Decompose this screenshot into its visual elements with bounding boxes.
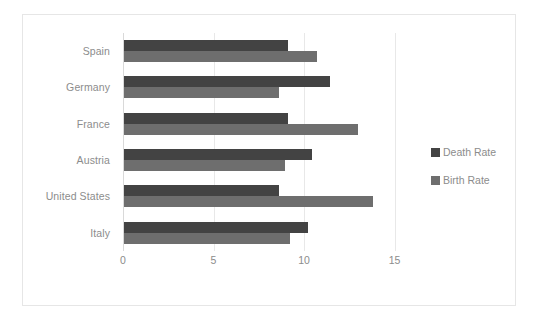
category-label: Germany	[23, 69, 119, 105]
bar-death-rate[interactable]	[124, 113, 288, 124]
chart-plot-wrapper: SpainGermanyFranceAustriaUnited StatesIt…	[23, 15, 515, 305]
bar-death-rate[interactable]	[124, 222, 308, 233]
legend-label: Death Rate	[443, 146, 496, 158]
bar-death-rate[interactable]	[124, 185, 279, 196]
bar-birth-rate[interactable]	[124, 160, 285, 171]
bar-group	[124, 142, 418, 178]
legend-swatch-icon	[431, 148, 440, 157]
bar-group	[124, 178, 418, 214]
legend-swatch-icon	[431, 176, 440, 185]
bar-birth-rate[interactable]	[124, 233, 290, 244]
bar-death-rate[interactable]	[124, 40, 288, 51]
plot-area	[123, 33, 418, 251]
bar-group	[124, 106, 418, 142]
bar-group	[124, 215, 418, 251]
legend-item[interactable]: Birth Rate	[431, 174, 515, 186]
bar-series-container	[124, 33, 418, 251]
bar-birth-rate[interactable]	[124, 196, 373, 207]
legend-label: Birth Rate	[443, 174, 490, 186]
legend-item[interactable]: Death Rate	[431, 146, 515, 158]
bar-group	[124, 69, 418, 105]
bar-birth-rate[interactable]	[124, 87, 279, 98]
value-axis: 051015	[123, 254, 418, 272]
category-axis: SpainGermanyFranceAustriaUnited StatesIt…	[23, 33, 119, 251]
bar-death-rate[interactable]	[124, 149, 312, 160]
bar-group	[124, 33, 418, 69]
chart-legend: Death RateBirth Rate	[431, 146, 515, 202]
category-label: United States	[23, 178, 119, 214]
x-tick-label: 15	[389, 254, 401, 266]
bar-birth-rate[interactable]	[124, 124, 358, 135]
category-label: Italy	[23, 215, 119, 251]
x-tick-label: 0	[120, 254, 126, 266]
bar-birth-rate[interactable]	[124, 51, 317, 62]
x-tick-label: 10	[298, 254, 310, 266]
category-label: Austria	[23, 142, 119, 178]
category-label: Spain	[23, 33, 119, 69]
x-tick-label: 5	[211, 254, 217, 266]
chart-frame: SpainGermanyFranceAustriaUnited StatesIt…	[22, 14, 516, 306]
category-label: France	[23, 106, 119, 142]
bar-death-rate[interactable]	[124, 76, 330, 87]
